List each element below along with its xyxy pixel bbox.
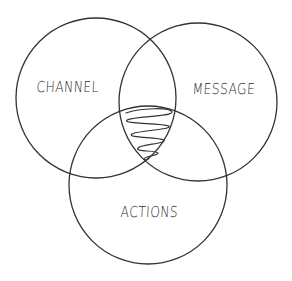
label-channel: CHANNEL (36, 80, 99, 95)
circle-channel (16, 18, 176, 178)
label-actions: ACTIONS (120, 205, 178, 220)
venn-svg (0, 0, 292, 281)
circle-message (119, 23, 277, 181)
circle-actions (69, 106, 227, 264)
center-scribble (126, 109, 172, 160)
label-message: MESSAGE (192, 82, 255, 97)
venn-diagram: CHANNEL MESSAGE ACTIONS (0, 0, 292, 281)
